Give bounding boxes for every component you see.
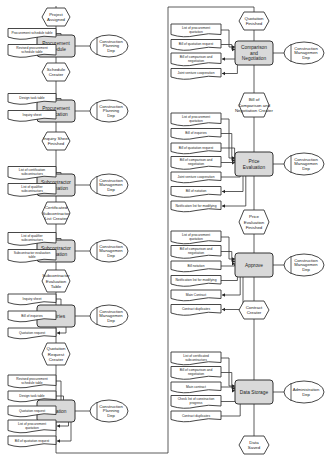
org-unit: ConstructionManagemenDep [90, 305, 128, 327]
output-document: Contract duplicates [171, 305, 221, 316]
org-unit: ConstructionPlanningDep [90, 35, 128, 57]
document-label: Quotation request [19, 331, 45, 335]
document-label: progress [190, 401, 203, 405]
document-label: Bill of notation [186, 189, 207, 193]
document-label: subcontractors [21, 189, 43, 193]
event-label: Creater [247, 310, 262, 315]
event-label: Saved [248, 445, 261, 450]
document-label: negotiation [188, 59, 204, 63]
input-document: Bill of quotation request [171, 40, 221, 51]
document-label: Contract duplicates [182, 307, 211, 311]
function-price-evaluation[interactable]: PriceEvaluation [235, 152, 273, 176]
output-document: Notification list for modifying [171, 201, 221, 212]
org-unit: ConstructionManagemenDep [90, 174, 128, 196]
output-document: List of procurementquotation [8, 420, 56, 433]
procurement-epc-diagram: ProjectAssignedProcurementScheduleConstr… [0, 0, 333, 467]
document-label: Design task table [19, 394, 44, 398]
output-document: Main Contract [171, 290, 221, 301]
input-document: List of certificatedsubcontractors [171, 352, 221, 365]
org-label: Dep [107, 113, 115, 118]
document-label: table [28, 255, 35, 259]
arrow-head [222, 204, 225, 208]
document-label: quotation [189, 30, 203, 34]
input-document: Check list of constructionprogress [171, 396, 221, 409]
output-document: Bill of comparison andnegotiation [171, 53, 221, 66]
org-label: Dep [107, 187, 115, 192]
event-contract-creater: ContractCreater [239, 301, 269, 319]
event-quotation-finished: QuotationFinished [239, 12, 269, 30]
event-label: List Creater [45, 216, 68, 221]
input-document: List of procurementquotation [171, 24, 221, 37]
output-document: Joint venture cooperation [171, 69, 221, 80]
org-label: Dep [107, 253, 115, 258]
function-label: Data Storage [240, 390, 269, 395]
input-document: Bill of quotation request [171, 143, 221, 154]
document-label: Bill of quotation request [15, 439, 50, 443]
event-label: Table [51, 284, 62, 289]
event-label: Negotiation Creater [235, 108, 274, 113]
document-label: Design task table [19, 96, 44, 100]
output-document: Bill of quotation request [8, 436, 56, 447]
function-label: and [250, 51, 258, 56]
function-label: Evaluation [243, 165, 266, 170]
document-label: negotiation [188, 372, 204, 376]
document-label: quotation [25, 426, 39, 430]
input-document: Bill of inquiries [171, 129, 221, 140]
connector [221, 358, 235, 386]
event-label: Creater [49, 357, 64, 362]
document-label: Bill of quotation request [179, 42, 214, 46]
document-label: Main contract [186, 385, 206, 389]
document-label: Joint venture cooperation [177, 71, 214, 75]
function-label: Price [249, 159, 260, 164]
event-schedule-creater: ScheduleCreater [42, 63, 70, 81]
event-bill-of-comparison-and-negotiation-creater: Bill ofComparison andNegotiation Creater [235, 93, 274, 117]
org-unit: AdministrationDep [284, 381, 324, 403]
function-data-storage[interactable]: Data Storage [235, 380, 273, 404]
document-label: Notification list for modifying [175, 278, 216, 282]
function-approve[interactable]: Approve [235, 253, 273, 277]
org-unit: ConstructionManagemenDep [90, 240, 128, 262]
event-label: Finished [246, 21, 263, 26]
event-inquiry-sheet-finished: Inquiry SheetFinished [42, 132, 70, 150]
document-label: subcontractors [185, 358, 207, 362]
document-label: schedule table [21, 381, 42, 385]
org-unit: ConstructionManagemenDep [284, 153, 324, 175]
org-unit: ConstructionPlanningDep [90, 400, 128, 422]
input-document: Joint venture cooperation [171, 172, 221, 183]
arrow-head [222, 190, 225, 194]
document-label: schedule table [21, 50, 42, 54]
event-quotation-request-creater: QuotationRequestCreater [42, 343, 70, 365]
document-label: Main Contract [186, 293, 207, 297]
event-project-assigned: ProjectAssigned [42, 8, 70, 26]
input-document: Notification list for modifying [171, 276, 221, 287]
org-unit: ConstructionManagemenDep [284, 42, 324, 64]
connector [221, 237, 235, 259]
document-label: Bill notation [187, 264, 204, 268]
org-label: Dep [107, 413, 115, 418]
org-unit: ConstructionPlanningDep [90, 100, 128, 122]
event-certificated-subcontractor-list-creater: CertificatedSubcontractorList Creater [42, 202, 70, 224]
input-document: Main contract [171, 382, 221, 393]
arrow-head [222, 308, 225, 312]
arrow-head [57, 424, 60, 428]
document-label: Notification list for modifying [175, 204, 216, 208]
function-label: Comparison [241, 45, 267, 50]
arrow-head [222, 293, 225, 297]
input-document: Bill of comparison andnegotiation [171, 157, 221, 170]
document-label: quotation [189, 119, 203, 123]
document-label: Procurement schedule table [11, 31, 52, 35]
function-comparison-and-negotiation[interactable]: ComparisonandNegotiation [235, 41, 273, 65]
org-label: Dep [302, 55, 310, 60]
arrow-head [222, 72, 225, 76]
document-label: Contract duplicates [182, 414, 211, 418]
document-label: Inquiry sheet [23, 297, 42, 301]
arrow-head [57, 439, 60, 443]
arrow-head [57, 331, 60, 335]
input-document: Bill of comparison andnegotiation [171, 246, 221, 259]
event-label: Assigned [47, 17, 66, 22]
document-label: Bill of inquiries [185, 131, 207, 135]
input-document: Bill of comparison andnegotiation [171, 367, 221, 380]
document-label: Bill of inquiries [21, 314, 43, 318]
org-unit: ConstructionManagemenDep [284, 254, 324, 276]
org-label: Dep [302, 267, 310, 272]
